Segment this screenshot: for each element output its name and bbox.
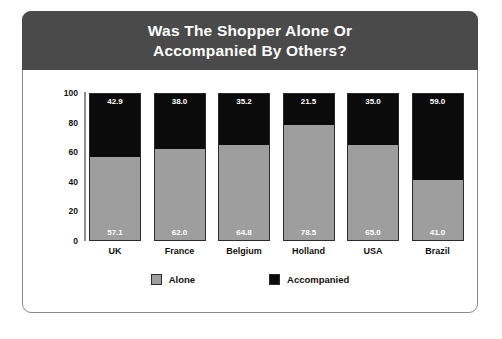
bar-segment-alone[interactable]: 65.0 [348,145,398,240]
bar-value-label-accompanied: 35.0 [348,97,398,106]
bar-value-label-alone: 41.0 [413,228,463,237]
x-axis-label-brazil: Brazil [412,246,464,256]
bar-group[interactable]: 42.957.1 [89,93,141,241]
bars-container: 42.957.138.062.035.264.821.578.535.065.0… [88,93,474,241]
legend-swatch-accompanied [269,274,280,285]
bar-segment-accompanied[interactable]: 59.0 [413,94,463,180]
bar-group[interactable]: 59.041.0 [412,93,464,241]
bar-value-label-accompanied: 38.0 [155,97,205,106]
bar-group[interactable]: 21.578.5 [283,93,335,241]
y-axis-tick-60: 60 [22,147,78,157]
bar-segment-alone[interactable]: 64.8 [219,145,269,240]
y-axis-tick-80: 80 [22,118,78,128]
legend-swatch-alone [151,274,162,285]
y-axis-tick-100: 100 [22,88,78,98]
x-axis-label-holland: Holland [283,246,335,256]
bar-value-label-alone: 78.5 [284,228,334,237]
bar-value-label-alone: 65.0 [348,228,398,237]
bar-value-label-accompanied: 35.2 [219,97,269,106]
bar-group[interactable]: 35.264.8 [218,93,270,241]
bar-segment-alone[interactable]: 41.0 [413,180,463,240]
y-axis-tick-0: 0 [22,236,78,246]
chart-title-band: Was The Shopper Alone Or Accompanied By … [22,11,478,70]
x-axis-label-uk: UK [89,246,141,256]
chart-page: Was The Shopper Alone Or Accompanied By … [0,0,502,339]
bar-value-label-accompanied: 42.9 [90,97,140,106]
bar-value-label-accompanied: 21.5 [284,97,334,106]
bar-segment-accompanied[interactable]: 35.0 [348,94,398,145]
x-axis-category-labels: UKFranceBelgiumHollandUSABrazil [88,246,474,262]
plot-area: 100806040200 42.957.138.062.035.264.821.… [22,70,478,313]
bar-value-label-alone: 62.0 [155,228,205,237]
x-axis-label-france: France [154,246,206,256]
y-axis-tick-labels: 100806040200 [22,86,78,246]
bar-group[interactable]: 35.065.0 [347,93,399,241]
bar-segment-accompanied[interactable]: 21.5 [284,94,334,125]
y-axis-tick-40: 40 [22,177,78,187]
legend-label-alone: Alone [169,274,195,285]
x-axis-label-usa: USA [347,246,399,256]
bar-segment-alone[interactable]: 57.1 [90,157,140,240]
y-axis-line [84,92,86,241]
x-axis-label-belgium: Belgium [218,246,270,256]
legend-label-accompanied: Accompanied [287,274,349,285]
bar-group[interactable]: 38.062.0 [154,93,206,241]
bar-value-label-alone: 64.8 [219,228,269,237]
legend-item-alone[interactable]: Alone [151,274,195,285]
bar-value-label-alone: 57.1 [90,228,140,237]
bar-segment-alone[interactable]: 62.0 [155,149,205,240]
bar-segment-alone[interactable]: 78.5 [284,125,334,240]
chart-legend: AloneAccompanied [22,274,478,285]
bar-value-label-accompanied: 59.0 [413,97,463,106]
page-title: Was The Shopper Alone Or Accompanied By … [148,21,352,61]
bar-segment-accompanied[interactable]: 38.0 [155,94,205,149]
bar-segment-accompanied[interactable]: 42.9 [90,94,140,157]
bar-segment-accompanied[interactable]: 35.2 [219,94,269,145]
legend-item-accompanied[interactable]: Accompanied [269,274,349,285]
y-axis-tick-20: 20 [22,206,78,216]
